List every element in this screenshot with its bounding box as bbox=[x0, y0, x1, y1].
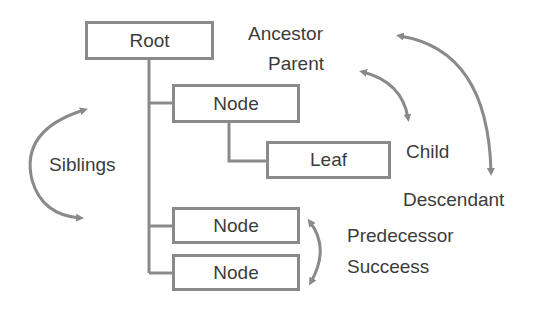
child-node-3: Node bbox=[172, 254, 300, 291]
child-node-1: Node bbox=[172, 84, 300, 123]
label-descendant: Descendant bbox=[403, 190, 504, 209]
leaf-node-label: Leaf bbox=[310, 149, 347, 171]
leaf-node: Leaf bbox=[266, 141, 391, 179]
child-node-2: Node bbox=[172, 207, 300, 244]
root-node-label: Root bbox=[129, 30, 169, 52]
child-node-1-label: Node bbox=[213, 93, 258, 115]
label-child: Child bbox=[406, 142, 449, 161]
child-node-2-label: Node bbox=[213, 215, 258, 237]
parent-child-arrow bbox=[363, 72, 408, 118]
predecessor-successor-arrow bbox=[310, 222, 320, 282]
label-parent: Parent bbox=[268, 54, 324, 73]
connector-leaf bbox=[229, 122, 267, 161]
label-successor: Succeess bbox=[347, 257, 429, 276]
root-node: Root bbox=[85, 21, 214, 60]
label-siblings: Siblings bbox=[49, 155, 116, 174]
label-predecessor: Predecessor bbox=[347, 226, 454, 245]
child-node-3-label: Node bbox=[213, 262, 258, 284]
label-ancestor: Ancestor bbox=[248, 24, 323, 43]
